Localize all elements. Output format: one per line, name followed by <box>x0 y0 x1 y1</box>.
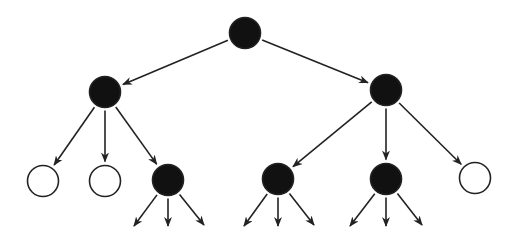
dangling-arrow-b2-8 <box>397 194 422 225</box>
hollow-node-a2 <box>90 166 121 197</box>
edges <box>54 40 461 226</box>
dangling-arrow-b1-5 <box>289 194 314 225</box>
dangling-arrow-a3-0 <box>134 195 157 226</box>
dangling-arrow-a3-2 <box>180 194 204 225</box>
edge-arrow-b-b3 <box>399 103 461 164</box>
hollow-node-a1 <box>28 166 59 197</box>
hollow-node-b3 <box>460 163 491 194</box>
filled-node-a <box>90 77 121 108</box>
dangling-arrow-b2-6 <box>350 194 375 226</box>
edge-arrow-root-b <box>262 40 368 83</box>
edge-arrow-b-b1 <box>293 102 372 167</box>
filled-node-a3 <box>153 165 184 196</box>
edge-arrow-root-a <box>123 40 228 84</box>
tree-diagram <box>0 0 506 247</box>
filled-node-root <box>230 18 261 49</box>
filled-node-b <box>371 75 402 106</box>
nodes <box>28 18 491 197</box>
edge-arrow-a-a3 <box>116 107 157 164</box>
edge-arrow-a-a1 <box>54 107 94 165</box>
dangling-arrow-b1-3 <box>244 194 267 226</box>
filled-node-b2 <box>371 164 402 195</box>
filled-node-b1 <box>263 164 294 195</box>
